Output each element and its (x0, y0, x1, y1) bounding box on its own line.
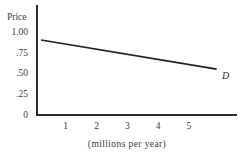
x-tick-5: 5 (179, 121, 199, 132)
x-axis-title: (millions per year) (88, 139, 166, 149)
plot-area (0, 0, 241, 156)
demand-curve-chart: Price 1.00.75.50.250 12345 (millions per… (0, 0, 241, 156)
demand-curve-label: D (222, 70, 229, 81)
x-tick-4: 4 (148, 121, 168, 132)
y-tick-.75: .75 (0, 47, 28, 59)
x-tick-1: 1 (56, 121, 76, 132)
x-tick-3: 3 (117, 121, 137, 132)
x-tick-2: 2 (87, 121, 107, 132)
y-tick-.25: .25 (0, 88, 28, 100)
y-tick-1.00: 1.00 (0, 26, 28, 38)
y-tick-.50: .50 (0, 67, 28, 79)
demand-curve-line (41, 40, 217, 69)
y-tick-0: 0 (0, 109, 28, 121)
y-axis-title: Price (7, 12, 27, 22)
